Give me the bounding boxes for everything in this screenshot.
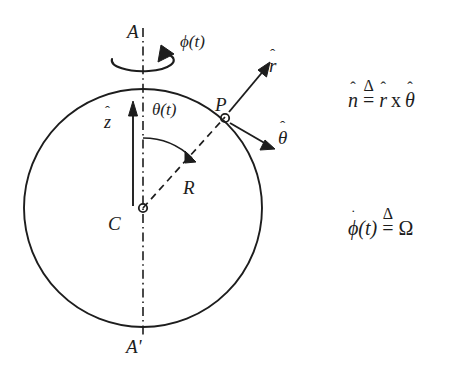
axis-label-bottom: A' [126,337,142,356]
phi-dot-accent: ˙ [348,208,358,223]
spin-angle-label: ϕ(t) [180,33,205,50]
spin-direction-arrowhead [158,45,174,62]
z-axis-arrowhead [129,101,138,116]
theta-hat-accent: ˆ [278,118,287,134]
kinematics-diagram [0,0,464,375]
center-label: C [108,214,121,233]
z-hat-accent: ˆ [104,104,111,119]
delta-accent-spin: Δ [381,206,394,222]
normal-definition-equation: ˆ n Δ = ˆ r x ˆ θ [348,90,415,110]
r-hat-accent: ˆ [269,46,276,62]
radius-label: R [183,178,195,197]
triangle-equals-sign-spin: Δ = [381,218,394,238]
polar-angle-arrowhead [185,151,196,163]
theta-hat-accent-eq: ˆ [405,80,415,96]
axis-label-top: A [127,22,139,41]
cross-product-operator: x [391,89,401,111]
r-unit-vector-shaft [229,69,265,112]
r-hat-accent-eq: ˆ [379,80,387,96]
omega-symbol: Ω [399,217,414,239]
triangle-equals-sign-normal: Δ = [362,90,375,110]
n-hat-accent: ˆ [348,80,358,96]
phi-argument: (t) [358,217,377,239]
delta-accent-normal: Δ [362,78,375,94]
z-unit-vector-label: ˆ z [104,113,111,131]
spin-rate-equation: ˙ ϕ (t) Δ = Ω [348,218,413,238]
point-p-label: P [215,95,227,114]
r-unit-vector-label: ˆ r [269,56,276,75]
polar-angle-label: θ(t) [152,101,176,118]
theta-unit-vector-label: ˆ θ [278,128,287,147]
